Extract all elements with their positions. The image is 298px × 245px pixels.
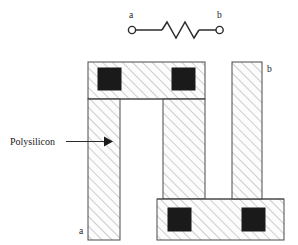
poly-left-vertical-leg [88, 99, 120, 240]
terminal-a-node [128, 26, 135, 33]
resistor-zigzag [162, 22, 199, 38]
contact-top-right [172, 68, 195, 90]
poly-middle-vertical-leg [163, 99, 205, 199]
schematic-label-a: a [129, 10, 134, 20]
schematic-label-b: b [217, 10, 222, 20]
polysilicon-callout-label: Polysilicon [10, 136, 55, 147]
polysilicon-layout: a b [79, 62, 284, 240]
resistor-symbol: a b [128, 10, 223, 38]
contact-bottom-left [168, 208, 191, 231]
contact-top-left [98, 68, 121, 90]
figure-root: a b a b [0, 0, 298, 245]
terminal-b-node [216, 26, 223, 33]
layout-label-a: a [79, 226, 84, 236]
figure-canvas: a b a b [0, 0, 298, 245]
layout-label-b: b [267, 64, 272, 74]
poly-right-vertical-leg [232, 62, 262, 199]
contact-bottom-right [242, 208, 265, 231]
